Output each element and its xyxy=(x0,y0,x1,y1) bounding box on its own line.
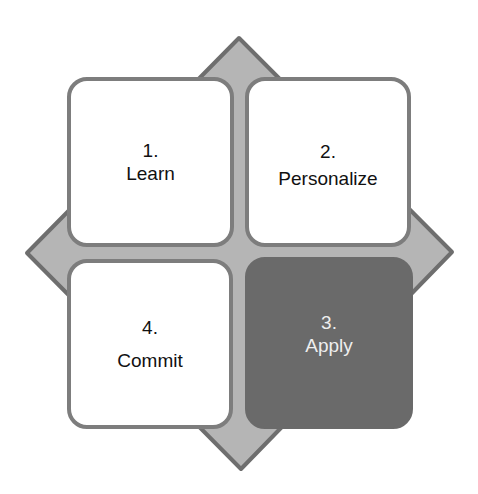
step-number: 2. xyxy=(320,140,336,163)
step-number: 1. xyxy=(143,139,159,162)
step-apply: 3. Apply xyxy=(245,257,413,429)
step-learn: 1. Learn xyxy=(67,77,234,247)
step-commit: 4. Commit xyxy=(67,259,233,429)
step-number: 4. xyxy=(142,316,158,339)
step-label: Commit xyxy=(117,349,182,372)
step-personalize: 2. Personalize xyxy=(245,77,411,247)
step-label: Apply xyxy=(305,334,353,357)
step-label: Personalize xyxy=(278,167,377,190)
step-label: Learn xyxy=(126,162,175,185)
step-number: 3. xyxy=(321,311,337,334)
